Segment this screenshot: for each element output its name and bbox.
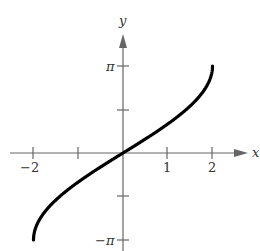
- y-tick-label-neg-pi: −π: [95, 233, 115, 248]
- x-tick-label-neg-2: −2: [20, 160, 39, 175]
- y-axis-arrow-icon: [119, 34, 127, 48]
- x-axis-label: x: [252, 145, 260, 160]
- x-tick-label-1: 1: [163, 160, 171, 175]
- x-tick-label-2: 2: [208, 160, 216, 175]
- chart: y x π −π −2 1 2: [0, 0, 260, 251]
- y-tick-label-pi: π: [105, 59, 115, 74]
- y-axis-label: y: [118, 13, 127, 28]
- x-axis-arrow-icon: [234, 149, 248, 157]
